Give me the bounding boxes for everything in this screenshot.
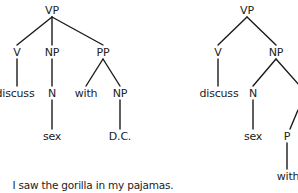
left-tree-node-np: NP (45, 47, 59, 58)
left-tree-node-np: NP (113, 88, 127, 99)
left-tree-node-v: V (13, 47, 20, 58)
left-tree-branch (86, 59, 103, 86)
left-tree-node-pp: PP (97, 47, 110, 58)
right-tree-branch (218, 17, 247, 45)
right-tree-node-discuss: discuss (200, 88, 239, 99)
right-tree-branch (247, 17, 276, 45)
right-tree-branch (276, 59, 298, 86)
right-tree-node-v: V (214, 47, 221, 58)
right-tree-node-vp: VP (240, 5, 254, 16)
right-tree-node-p: P (284, 131, 290, 142)
left-tree-branch (103, 59, 120, 86)
left-tree-node-d-c: D.C. (109, 131, 131, 142)
right-tree-node-np: NP (269, 47, 283, 58)
right-tree-node-n: N (249, 88, 257, 99)
left-tree-node-with: with (75, 88, 98, 99)
right-tree-branch (290, 110, 298, 129)
right-tree-branch (253, 59, 276, 86)
left-tree-node-n: N (48, 88, 56, 99)
example-sentence: I saw the gorilla in my pajamas. (13, 180, 174, 191)
left-tree-branch (17, 17, 52, 45)
syntax-tree-diagram: VPVNPPPdiscussNwithNPsexD.C.VPVNPdiscuss… (0, 0, 298, 193)
right-tree-node-sex: sex (244, 131, 262, 142)
left-tree-node-sex: sex (43, 131, 61, 142)
right-tree-node-with: with (277, 171, 298, 182)
left-tree-branch (52, 17, 103, 45)
left-tree-node-vp: VP (45, 5, 59, 16)
left-tree-node-discuss: discuss (0, 88, 34, 99)
